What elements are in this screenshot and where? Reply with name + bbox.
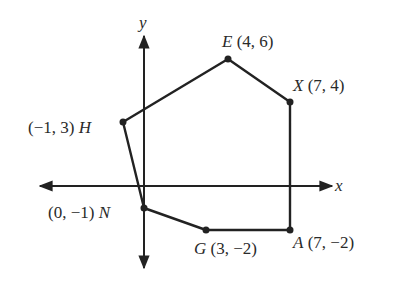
label-H: (−1, 3) H xyxy=(28,119,91,136)
label-G: G (3, −2) xyxy=(194,240,257,257)
label-N: (0, −1) N xyxy=(48,204,110,221)
label-X-name: X xyxy=(293,76,303,95)
label-H-name: H xyxy=(79,118,91,137)
point-N xyxy=(141,205,148,212)
y-axis-label: y xyxy=(139,14,147,31)
point-H xyxy=(120,119,127,126)
point-X xyxy=(287,99,294,106)
label-G-coords: (3, −2) xyxy=(211,239,257,258)
label-A-coords: (7, −2) xyxy=(308,233,354,252)
label-E-name: E xyxy=(222,32,232,51)
label-N-coords: (0, −1) xyxy=(48,203,94,222)
point-E xyxy=(225,56,232,63)
point-G xyxy=(203,227,210,234)
label-E-coords: (4, 6) xyxy=(237,32,274,51)
label-A: A (7, −2) xyxy=(293,234,354,251)
label-H-coords: (−1, 3) xyxy=(28,118,74,137)
x-axis-label: x xyxy=(335,177,343,194)
label-A-name: A xyxy=(293,233,303,252)
label-X-coords: (7, 4) xyxy=(308,76,345,95)
label-G-name: G xyxy=(194,239,206,258)
label-E: E (4, 6) xyxy=(222,33,273,50)
label-N-name: N xyxy=(99,203,110,222)
polygon-EXAGNH xyxy=(123,59,290,230)
label-X: X (7, 4) xyxy=(293,77,344,94)
